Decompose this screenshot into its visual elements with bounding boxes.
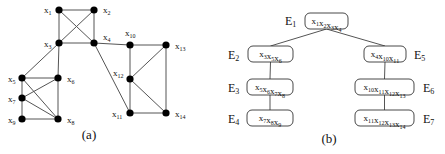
node-label-x4: x4: [103, 32, 111, 43]
edge-x7-x8: [22, 98, 58, 119]
edge-x4-x10: [94, 43, 130, 45]
tree-edge-E5-E6: [385, 62, 386, 79]
edge-x4-x11: [94, 43, 130, 113]
hyperedge-label-E6: E6: [423, 81, 434, 96]
node-label-x14: x14: [175, 109, 186, 120]
node-x11: [126, 109, 133, 116]
caption-b: (b): [321, 131, 336, 146]
edge-x12-x14: [130, 79, 166, 113]
node-x6: [54, 74, 61, 81]
node-x9: [18, 115, 25, 122]
node-x10: [126, 41, 133, 48]
tree-b: x1x2x3x4E1x3x5x6E2x5x6x7x8E3x7x8x9E4x4x1…: [228, 13, 434, 146]
edge-x3-x6: [58, 43, 59, 78]
hyperedge-label-E3: E3: [228, 81, 239, 96]
hyperedge-label-E5: E5: [414, 48, 425, 63]
edge-x12-x13: [130, 45, 166, 79]
edge-x5-x8: [22, 78, 58, 119]
edge-x3-x5: [22, 43, 59, 78]
node-label-x13: x13: [175, 41, 186, 52]
tree-edge-E1-E2: [271, 29, 327, 46]
node-x7: [18, 94, 25, 101]
caption-a: (a): [82, 127, 96, 142]
node-x14: [162, 109, 169, 116]
tree-nodes: x1x2x3x4E1x3x5x6E2x5x6x7x8E3x7x8x9E4x4x1…: [228, 13, 434, 130]
tree-edges: [270, 29, 385, 110]
node-x12: [126, 75, 133, 82]
hyperedge-label-E7: E7: [423, 112, 434, 127]
tree-edge-E2-E3: [270, 62, 271, 79]
node-label-x2: x2: [103, 5, 111, 16]
node-label-x3: x3: [44, 39, 52, 50]
figure-canvas: x1x2x3x4x5x6x7x8x9x10x11x12x13x14 (a) x1…: [0, 0, 445, 154]
node-label-x8: x8: [67, 115, 75, 126]
node-x3: [55, 39, 62, 46]
node-label-x9: x9: [8, 115, 16, 126]
node-label-x6: x6: [67, 74, 75, 85]
hyperedge-label-E1: E1: [285, 14, 296, 29]
node-x1: [55, 6, 62, 13]
node-label-x1: x1: [44, 5, 52, 16]
graph-edges: [22, 10, 166, 119]
node-x13: [162, 41, 169, 48]
node-x8: [54, 115, 61, 122]
node-x2: [90, 6, 97, 13]
node-label-x12: x12: [113, 68, 124, 79]
node-label-x11: x11: [112, 109, 122, 120]
hyperedge-label-E2: E2: [228, 48, 239, 63]
node-x5: [18, 74, 25, 81]
edge-x6-x7: [22, 78, 58, 98]
node-label-x5: x5: [8, 74, 16, 85]
hyperedge-label-E4: E4: [228, 112, 239, 127]
node-label-x7: x7: [8, 94, 16, 105]
node-label-x10: x10: [125, 28, 136, 39]
graph-a: x1x2x3x4x5x6x7x8x9x10x11x12x13x14 (a): [8, 5, 186, 142]
node-x4: [90, 39, 97, 46]
